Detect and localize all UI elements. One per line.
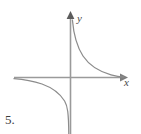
y-axis-arrow-icon	[67, 11, 75, 19]
x-axis-label: x	[124, 77, 129, 88]
graph-canvas	[0, 0, 141, 134]
hyperbola-figure: y x 5.	[0, 0, 141, 134]
curve-branch-quadrant-i	[72, 20, 124, 77]
curve-branch-quadrant-iii	[14, 79, 69, 134]
y-axis-label: y	[77, 13, 82, 24]
problem-number-label: 5.	[5, 113, 15, 126]
